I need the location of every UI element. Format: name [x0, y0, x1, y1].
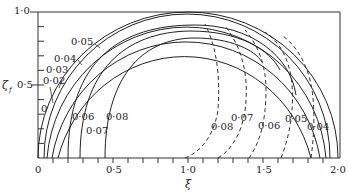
curve-dashed-0-07: [218, 26, 246, 158]
x-tick-1-5: 1·5: [256, 164, 272, 175]
y-axis-label: ζ: [2, 79, 9, 92]
label-dashed-0-05: 0·05: [285, 113, 307, 124]
y-tick-0-5: 0·5: [17, 79, 33, 90]
chart-figure: 0 0·5 1·0 1·5 2·0 0·5 1·0 ξ ζ f 0 0·02 0…: [0, 0, 350, 194]
curve-dashed-0-05: [265, 32, 293, 158]
label-solid-0-06: 0·06: [72, 111, 94, 122]
y-tick-1-0: 1·0: [14, 5, 30, 16]
label-dashed-0-07: 0·07: [231, 112, 253, 123]
solid-curves: [38, 12, 338, 158]
chart-svg: 0 0·5 1·0 1·5 2·0 0·5 1·0 ξ ζ f 0 0·02 0…: [0, 0, 350, 194]
x-tick-1-0: 1·0: [180, 164, 196, 175]
label-solid-0-05: 0·05: [71, 36, 93, 47]
label-dashed-0-06: 0·06: [258, 120, 280, 131]
label-solid-0-03: 0·03: [46, 64, 68, 75]
label-solid-0-08: 0·08: [106, 111, 128, 122]
x-tick-0-5: 0·5: [106, 164, 122, 175]
dashed-curves: [185, 24, 314, 158]
curve-solid-0-06: [68, 25, 296, 158]
x-tick-2-0: 2·0: [330, 164, 346, 175]
curve-dashed-0-04: [283, 36, 314, 158]
curve-solid-0-08: [105, 38, 262, 158]
curve-dashed-0-08: [185, 24, 219, 158]
x-tick-0: 0: [35, 164, 41, 175]
x-axis-label: ξ: [185, 178, 192, 191]
y-axis-label-subscript: f: [8, 86, 13, 94]
curve-solid-0-05: [58, 57, 311, 158]
label-dashed-0-04: 0·04: [307, 121, 329, 132]
label-solid-0-07: 0·07: [86, 125, 108, 136]
curve-solid-0: [38, 12, 338, 158]
label-solid-0-02: 0·02: [43, 75, 65, 86]
label-solid-0-04: 0·04: [54, 53, 76, 64]
label-solid-0: 0: [41, 103, 47, 114]
label-dashed-0-08: 0·08: [211, 121, 233, 132]
x-ticks: [53, 158, 323, 163]
